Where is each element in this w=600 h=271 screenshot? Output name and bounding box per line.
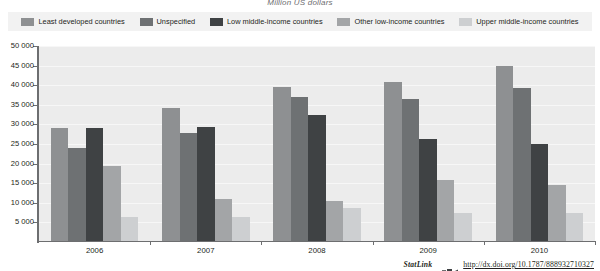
legend-item[interactable]: Upper middle-income countries <box>459 18 578 26</box>
legend-swatch-icon <box>337 18 350 26</box>
y-axis-tick-label: 20 000 <box>0 160 34 168</box>
bar <box>51 128 69 242</box>
bar <box>215 199 233 242</box>
x-axis-tick-label: 2010 <box>531 246 548 256</box>
bar <box>162 108 180 242</box>
bar <box>86 128 104 242</box>
legend-label: Low middle-income countries <box>227 18 323 26</box>
bar <box>197 127 215 242</box>
y-axis-tick-label: 10 000 <box>0 199 34 207</box>
bar <box>566 213 584 242</box>
bar <box>496 66 514 242</box>
gridline <box>39 46 595 47</box>
x-axis-tick <box>484 241 485 245</box>
bar <box>454 213 472 242</box>
bar <box>548 185 566 242</box>
legend-swatch-icon <box>21 18 34 26</box>
y-axis-tick-label: 25 000 <box>0 140 34 148</box>
legend-label: Upper middle-income countries <box>476 18 578 26</box>
y-axis-tick-label: 40 000 <box>0 81 34 89</box>
x-axis-tick-label: 2006 <box>86 246 103 256</box>
legend-item[interactable]: Least developed countries <box>21 18 124 26</box>
legend-swatch-icon <box>210 18 223 26</box>
legend-label: Other low-income countries <box>354 18 444 26</box>
bar <box>384 82 402 242</box>
bar <box>513 88 531 242</box>
x-axis-tick <box>373 241 374 245</box>
bar <box>103 166 121 242</box>
bar <box>121 217 139 242</box>
legend-swatch-icon <box>459 18 472 26</box>
chart-title: Million US dollars <box>0 0 600 7</box>
legend-item[interactable]: Other low-income countries <box>337 18 444 26</box>
bar <box>343 208 361 242</box>
bar <box>402 99 420 242</box>
bar <box>180 133 198 242</box>
x-axis-tick-label: 2008 <box>308 246 325 256</box>
x-axis-tick-label: 2007 <box>197 246 214 256</box>
x-axis-tick <box>595 241 596 245</box>
bar <box>68 148 86 242</box>
y-axis-tick-label: 30 000 <box>0 120 34 128</box>
plot-wrapper: 5 00010 00015 00020 00025 00030 00035 00… <box>0 40 600 245</box>
x-axis-tick-label: 2009 <box>420 246 437 256</box>
y-axis-tick-label: 5 000 <box>0 218 34 226</box>
bar <box>531 144 549 242</box>
chart-figure: Million US dollars Least developed count… <box>0 0 600 271</box>
bar <box>308 115 326 242</box>
bar <box>437 180 455 242</box>
bar <box>273 87 291 242</box>
bar <box>326 201 344 242</box>
legend-item[interactable]: Low middle-income countries <box>210 18 323 26</box>
legend-label: Unspecified <box>157 18 196 26</box>
x-axis-line <box>37 241 595 242</box>
bar <box>232 217 250 242</box>
chart-legend: Least developed countriesUnspecifiedLow … <box>8 12 592 31</box>
chart-footer: StatLink http://dx.doi.org/10.1787/88893… <box>0 258 600 271</box>
y-axis-tick-label: 45 000 <box>0 62 34 70</box>
y-axis-tick-label: 50 000 <box>0 42 34 50</box>
y-axis-tick-label: 15 000 <box>0 179 34 187</box>
legend-swatch-icon <box>140 18 153 26</box>
x-axis-tick <box>150 241 151 245</box>
x-axis-tick <box>261 241 262 245</box>
legend-label: Least developed countries <box>38 18 124 26</box>
bar <box>291 97 309 242</box>
statlink-label: StatLink <box>404 260 433 269</box>
legend-item[interactable]: Unspecified <box>140 18 196 26</box>
plot-area <box>39 46 595 242</box>
y-axis-tick-label: 35 000 <box>0 101 34 109</box>
bar <box>419 139 437 242</box>
statlink-url-link[interactable]: http://dx.doi.org/10.1787/888932710327 <box>463 260 594 269</box>
statlink-logo-icon <box>437 262 459 269</box>
